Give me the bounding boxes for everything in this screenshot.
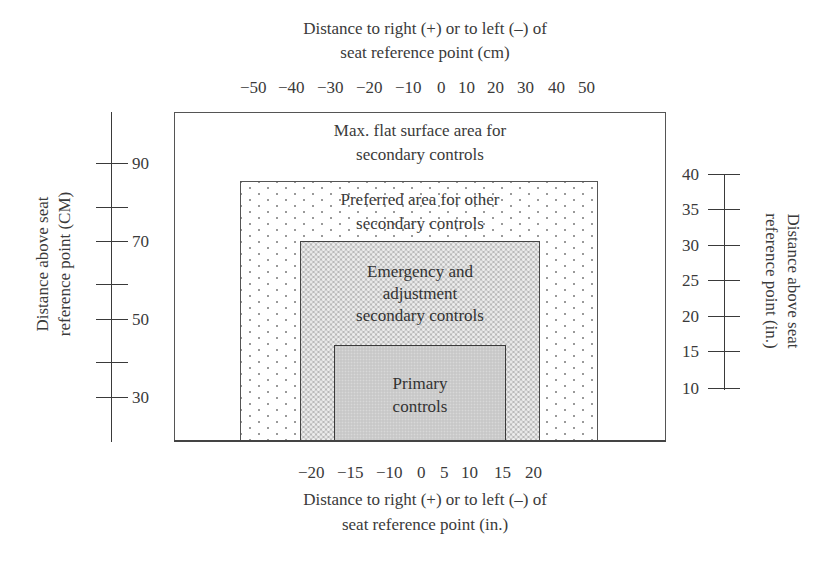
top-tick: 0 [437, 79, 446, 97]
left-tick-label: 30 [132, 389, 149, 407]
emergency-label-line3: secondary controls [300, 305, 540, 327]
top-tick: −10 [395, 79, 422, 97]
left-axis-title-line2: reference point (CM) [54, 164, 76, 364]
bottom-axis-title-line1: Distance to right (+) or to left (–) of [230, 489, 620, 511]
top-tick: 20 [487, 79, 504, 97]
right-tick-label: 30 [682, 237, 699, 255]
right-axis-tick [708, 245, 740, 246]
left-axis-title-line1: Distance above seat [32, 164, 54, 364]
right-axis-tick [708, 351, 740, 352]
left-tick-label: 70 [132, 233, 149, 251]
left-axis-tick [96, 284, 128, 285]
preferred-area-label-line1: Preferred area for other [250, 189, 590, 211]
left-axis-tick [96, 207, 128, 208]
preferred-area-label-line2: secondary controls [250, 213, 590, 235]
right-tick-label: 10 [682, 380, 699, 398]
left-axis-tick [96, 362, 128, 363]
right-tick-label: 40 [682, 166, 699, 184]
left-axis-tick [96, 241, 128, 242]
baseline [174, 440, 666, 442]
top-tick: −20 [356, 79, 383, 97]
right-axis-tick [708, 174, 740, 175]
right-axis-tick [708, 388, 740, 389]
top-tick: 10 [458, 79, 475, 97]
right-axis-tick [708, 280, 740, 281]
bottom-tick: 10 [461, 464, 478, 482]
right-axis-title-line2: reference point (in.) [760, 181, 782, 381]
right-tick-label: 25 [682, 272, 699, 290]
top-axis-title-line2: seat reference point (cm) [230, 42, 620, 64]
right-tick-label: 15 [682, 343, 699, 361]
left-axis-line [111, 112, 112, 442]
top-axis-title-line1: Distance to right (+) or to left (–) of [230, 18, 620, 40]
top-tick: 30 [517, 79, 534, 97]
max-flat-surface-label-line1: Max. flat surface area for [250, 120, 590, 142]
left-axis-tick [96, 163, 128, 164]
bottom-tick: 0 [417, 464, 426, 482]
top-tick: −30 [317, 79, 344, 97]
bottom-tick: 5 [440, 464, 449, 482]
right-axis-tick [708, 209, 740, 210]
bottom-tick: −10 [376, 464, 403, 482]
primary-label-line2: controls [334, 396, 506, 418]
bottom-tick: 15 [494, 464, 511, 482]
emergency-label-line2: adjustment [300, 283, 540, 305]
right-tick-label: 35 [682, 201, 699, 219]
right-axis-tick [708, 316, 740, 317]
top-tick: 50 [578, 79, 595, 97]
right-axis-title-line1: Distance above seat [782, 181, 804, 381]
left-tick-label: 90 [132, 155, 149, 173]
left-axis-tick [96, 319, 128, 320]
bottom-tick: −20 [298, 464, 325, 482]
max-flat-surface-label-line2: secondary controls [250, 144, 590, 166]
right-axis-line [724, 174, 725, 390]
top-tick: −40 [278, 79, 305, 97]
primary-label-line1: Primary [334, 373, 506, 395]
bottom-axis-title-line2: seat reference point (in.) [230, 514, 620, 536]
bottom-tick: −15 [337, 464, 364, 482]
emergency-label-line1: Emergency and [300, 261, 540, 283]
bottom-tick: 20 [525, 464, 542, 482]
left-axis-tick [96, 397, 128, 398]
top-tick: 40 [548, 79, 565, 97]
right-tick-label: 20 [682, 308, 699, 326]
top-tick: −50 [240, 79, 267, 97]
left-tick-label: 50 [132, 311, 149, 329]
